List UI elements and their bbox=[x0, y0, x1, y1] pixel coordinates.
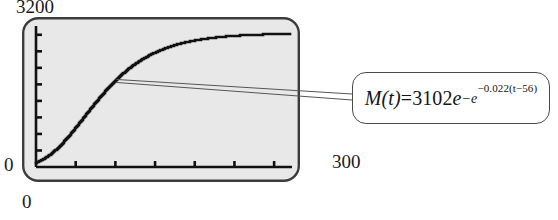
minus-e-exponent: −e bbox=[462, 91, 478, 106]
function-name: M(t) bbox=[365, 87, 401, 110]
calculator-screen bbox=[22, 17, 300, 182]
y-axis-min-label: 0 bbox=[4, 155, 14, 174]
inner-exponent: −0.022(t−56) bbox=[477, 82, 537, 94]
amplitude-coefficient: 3102 bbox=[412, 87, 452, 110]
plot-svg bbox=[22, 17, 300, 182]
x-axis-min-label: 0 bbox=[22, 192, 32, 211]
base-e-outer: e bbox=[453, 87, 462, 110]
gompertz-curve-figure: 3200 0 0 300 M(t) = 3102e−e−0.022(t−56) bbox=[0, 0, 558, 220]
equation-text: M(t) = 3102e−e−0.022(t−56) bbox=[353, 73, 549, 123]
screen-background bbox=[23, 18, 299, 181]
y-axis-max-label: 3200 bbox=[16, 0, 54, 16]
equation-callout-box: M(t) = 3102e−e−0.022(t−56) bbox=[352, 72, 550, 124]
x-axis-max-label: 300 bbox=[332, 152, 361, 171]
equals-sign: = bbox=[401, 87, 412, 110]
